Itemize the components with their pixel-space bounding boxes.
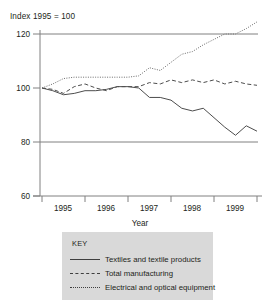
series-line-total-manufacturing — [42, 80, 257, 94]
y-tick-label-80: 80 — [21, 138, 31, 147]
series-line-electrical-optical — [42, 22, 257, 88]
legend-swatch-solid-line-icon — [70, 255, 100, 264]
legend-title: KEY — [72, 239, 87, 248]
legend-label-textiles: Textiles and textile products — [100, 255, 201, 264]
legend-swatch-dotted-line-icon — [70, 283, 100, 292]
x-axis-title: Year — [132, 219, 149, 228]
series-line-textiles — [42, 87, 257, 136]
y-tick-label-120: 120 — [16, 30, 30, 39]
legend-label-electrical-optical: Electrical and optical equipment — [100, 283, 215, 292]
legend-item-electrical-optical: Electrical and optical equipment — [70, 281, 215, 294]
x-tick-label-1997: 1997 — [140, 204, 159, 213]
chart-figure: Index 1995 = 100 120 100 80 60 1995 1996… — [0, 0, 267, 307]
legend-item-total-manufacturing: Total manufacturing — [70, 267, 173, 280]
y-tick-label-60: 60 — [21, 192, 31, 201]
legend-swatch-dashed-line-icon — [70, 269, 100, 278]
legend-label-total-manufacturing: Total manufacturing — [100, 269, 173, 278]
legend-item-textiles: Textiles and textile products — [70, 253, 201, 266]
x-tick-label-1999: 1999 — [226, 204, 245, 213]
line-chart-plot: 120 100 80 60 1995 1996 1997 1998 1999 Y… — [0, 0, 267, 230]
x-tick-label-1995: 1995 — [54, 204, 73, 213]
chart-legend: KEY Textiles and textile products Total … — [62, 232, 213, 300]
x-tick-label-1998: 1998 — [183, 204, 202, 213]
y-tick-label-100: 100 — [16, 84, 30, 93]
x-tick-label-1996: 1996 — [97, 204, 116, 213]
